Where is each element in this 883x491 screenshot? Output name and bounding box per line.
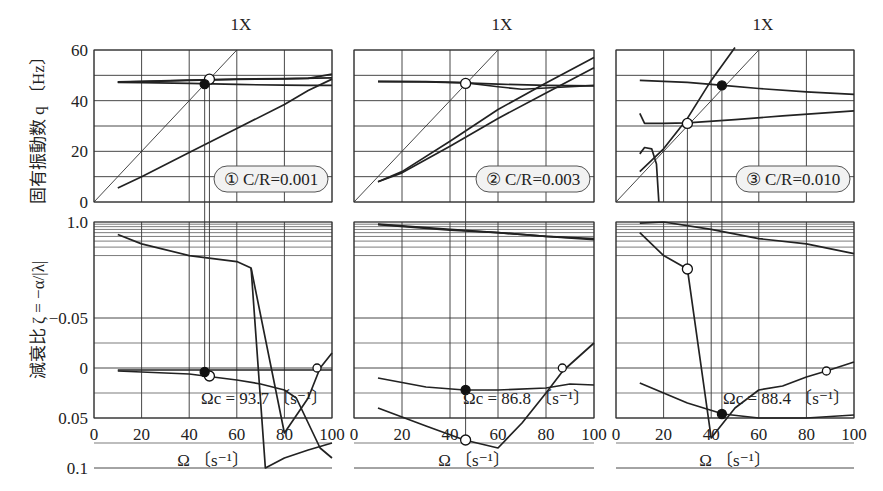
filled-marker — [200, 368, 209, 377]
x-tick-label: 60 — [750, 425, 767, 444]
open-marker — [822, 367, 830, 375]
x-tick-label: 100 — [841, 425, 867, 444]
y-tick-label: 0 — [80, 193, 89, 212]
y-tick-label: 0.05 — [58, 409, 88, 428]
x-tick-label: 0 — [350, 425, 359, 444]
y-tick-label: 0 — [80, 359, 89, 378]
parameter-badge-label: ② C/R=0.003 — [486, 170, 581, 189]
parameter-badge-label: ① C/R=0.001 — [224, 170, 319, 189]
x-tick-label: 80 — [798, 425, 815, 444]
panel-2: 020406080100Ω 〔s⁻¹〕1X② C/R=0.003Ωc = 86.… — [350, 15, 607, 470]
x-tick-label: 0 — [612, 425, 621, 444]
curve-λ3 — [118, 371, 332, 458]
open-marker — [682, 264, 692, 274]
y-tick-label: 60 — [71, 41, 88, 60]
y-axis-label-top: 固有振動数 q 〔Hz〕 — [29, 48, 48, 204]
sync-line-label: 1X — [230, 15, 251, 34]
critical-speed-label: Ωc = 88.4 〔s⁻¹〕 — [723, 389, 850, 408]
y-tick-label: 1.0 — [67, 213, 88, 232]
x-axis-label: Ω 〔s⁻¹〕 — [177, 451, 249, 470]
x-tick-label: 100 — [319, 425, 345, 444]
curve-λ4 — [118, 78, 332, 82]
x-tick-label: 0 — [90, 425, 99, 444]
x-tick-label: 100 — [581, 425, 607, 444]
curve-λ1 — [378, 58, 594, 182]
x-tick-label: 80 — [276, 425, 293, 444]
curve-λ4 — [640, 80, 854, 94]
filled-marker — [717, 81, 726, 90]
x-tick-label: 80 — [538, 425, 555, 444]
curve-λ3 — [640, 111, 854, 124]
damping-plot — [354, 222, 594, 468]
panel-1: 020406080100Ω 〔s⁻¹〕1X① C/R=0.001Ωc = 93.… — [90, 15, 345, 470]
x-tick-label: 60 — [490, 425, 507, 444]
x-axis-label: Ω 〔s⁻¹〕 — [699, 451, 771, 470]
figure: 020406080100Ω 〔s⁻¹〕1X① C/R=0.001Ωc = 93.… — [0, 0, 883, 491]
y-tick-label: 40 — [71, 92, 88, 111]
open-marker — [313, 364, 321, 372]
y-tick-label: −0.05 — [49, 309, 88, 328]
y-axis-label-bottom: 減衰比 ζ = −α/|λ| — [29, 261, 48, 380]
filled-marker — [717, 410, 726, 419]
open-marker — [558, 364, 566, 372]
panel-3: 020406080100Ω 〔s⁻¹〕1X③ C/R=0.010Ωc = 88.… — [612, 15, 867, 470]
filled-marker — [200, 80, 209, 89]
parameter-badge-label: ③ C/R=0.010 — [746, 170, 841, 189]
open-marker — [461, 78, 471, 88]
open-marker — [461, 435, 471, 445]
y-tick-label: 20 — [71, 142, 88, 161]
x-tick-label: 60 — [228, 425, 245, 444]
x-tick-label: 40 — [703, 425, 720, 444]
damping-plot — [616, 222, 854, 468]
damping-plot — [94, 222, 332, 468]
x-tick-label: 20 — [133, 425, 150, 444]
critical-speed-label: Ωc = 93.7 〔s⁻¹〕 — [201, 389, 328, 408]
open-marker — [682, 118, 692, 128]
sync-line-label: 1X — [752, 15, 773, 34]
x-tick-label: 40 — [442, 425, 459, 444]
critical-speed-label: Ωc = 86.8 〔s⁻¹〕 — [463, 389, 590, 408]
x-tick-label: 20 — [394, 425, 411, 444]
x-tick-label: 40 — [181, 425, 198, 444]
x-axis-label: Ω 〔s⁻¹〕 — [438, 451, 510, 470]
y-tick-label: 0.1 — [67, 459, 88, 478]
sync-line-label: 1X — [492, 15, 513, 34]
curve-λ1 — [118, 82, 332, 85]
x-tick-label: 20 — [655, 425, 672, 444]
